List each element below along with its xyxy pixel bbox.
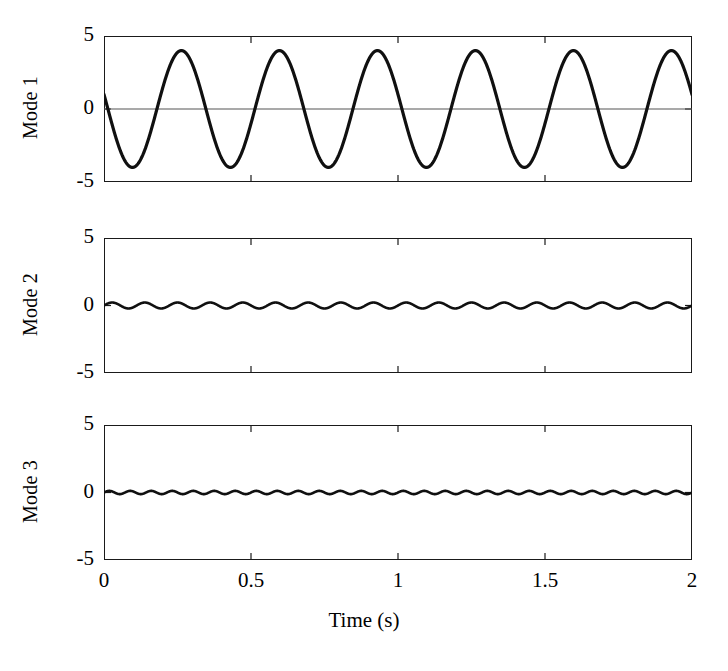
signal-curve-mode-3: [104, 491, 692, 494]
signal-curve-mode-2: [104, 303, 692, 309]
x-tick-label: 2: [652, 568, 728, 593]
y-tick-label: 5: [48, 224, 94, 249]
x-tick-label: 0: [64, 568, 144, 593]
panel-plot-1: [104, 36, 692, 182]
y-axis-label-mode-1: Mode 1: [19, 15, 42, 201]
y-axis-label-mode-3: Mode 3: [19, 404, 42, 579]
y-tick-label: 5: [48, 22, 94, 47]
panel-plot-3: [104, 425, 692, 560]
panel-plot-2: [104, 238, 692, 373]
y-tick-label: 0: [48, 479, 94, 504]
panel-2: [104, 238, 692, 373]
x-axis-label: Time (s): [0, 608, 728, 633]
y-axis-label-mode-2: Mode 2: [19, 217, 42, 392]
y-tick-label: -5: [48, 168, 94, 193]
x-tick-label: 1: [358, 568, 438, 593]
y-tick-label: -5: [48, 359, 94, 384]
panel-1: [104, 36, 692, 182]
x-tick-label: 1.5: [505, 568, 585, 593]
figure-root: -505Mode 1-505Mode 2-505Mode 300.511.52T…: [0, 0, 728, 671]
y-tick-label: 0: [48, 292, 94, 317]
y-tick-label: 0: [48, 95, 94, 120]
x-tick-label: 0.5: [211, 568, 291, 593]
y-tick-label: 5: [48, 411, 94, 436]
panel-3: [104, 425, 692, 560]
